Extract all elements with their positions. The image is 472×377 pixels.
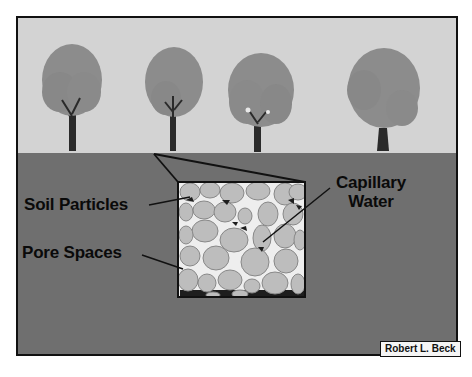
label-soil-particles: Soil Particles	[24, 195, 128, 214]
leader-pore-spaces	[142, 255, 183, 269]
tree-2	[145, 47, 203, 151]
zoom-line-right	[154, 154, 305, 182]
soil-inset	[178, 182, 307, 298]
label-capillary-line1: Capillary	[331, 173, 411, 192]
tree-3	[228, 53, 294, 152]
credit-label: Robert L. Beck	[380, 341, 461, 357]
tree-1	[42, 44, 102, 151]
label-capillary-water: Capillary Water	[331, 173, 411, 211]
tree-4	[347, 48, 420, 151]
label-pore-spaces: Pore Spaces	[22, 243, 122, 262]
label-capillary-line2: Water	[331, 192, 411, 211]
